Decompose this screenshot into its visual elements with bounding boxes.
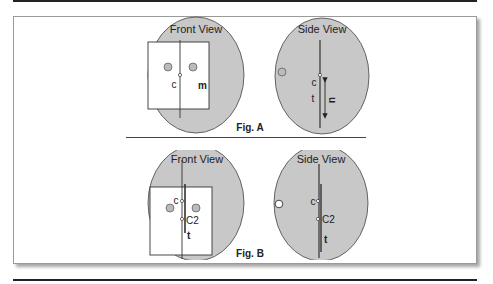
fig-b-side-c: c	[311, 196, 316, 207]
fig-b-side-c2: C2	[322, 214, 335, 225]
fig-a-caption: Fig. A	[236, 122, 263, 133]
fig-b-side-view: Side View c C2 t	[274, 145, 368, 261]
fig-a-side-u: u	[327, 97, 338, 103]
fig-b-caption: Fig. B	[236, 248, 264, 259]
fig-a-side-t: t	[312, 93, 315, 104]
side-weight-circle	[275, 200, 283, 208]
fig-a-front-c: c	[172, 79, 177, 90]
side-center-node	[318, 73, 321, 76]
fig-a-front-title: Front View	[170, 23, 222, 35]
fig-b-front-c: c	[174, 195, 179, 206]
side-weight-circle	[278, 68, 286, 76]
fig-a-side-title: Side View	[298, 23, 347, 35]
fig-b-front-title: Front View	[171, 153, 223, 165]
center-node	[180, 199, 183, 202]
fig-b-side-title: Side View	[297, 153, 346, 165]
fig-a-side-view: Side View c t u	[275, 18, 369, 134]
center2-node	[180, 217, 183, 220]
side-center2-node	[316, 217, 319, 220]
fig-a-side-c: c	[312, 77, 317, 88]
side-center-node	[316, 199, 319, 202]
fig-a-front-view: Front View c m	[148, 17, 244, 133]
diagram-canvas: Front View c m Side View c t u Fig. A Fr…	[0, 0, 493, 284]
fig-b-front-view: Front View c C2 t	[148, 145, 244, 261]
fig-b-front-c2: C2	[186, 215, 199, 226]
center-node	[178, 73, 181, 76]
fig-a-front-m: m	[198, 80, 207, 91]
weight-circle-left	[164, 63, 172, 71]
weight-circle-right	[189, 63, 197, 71]
weight-circle-right	[192, 204, 200, 212]
